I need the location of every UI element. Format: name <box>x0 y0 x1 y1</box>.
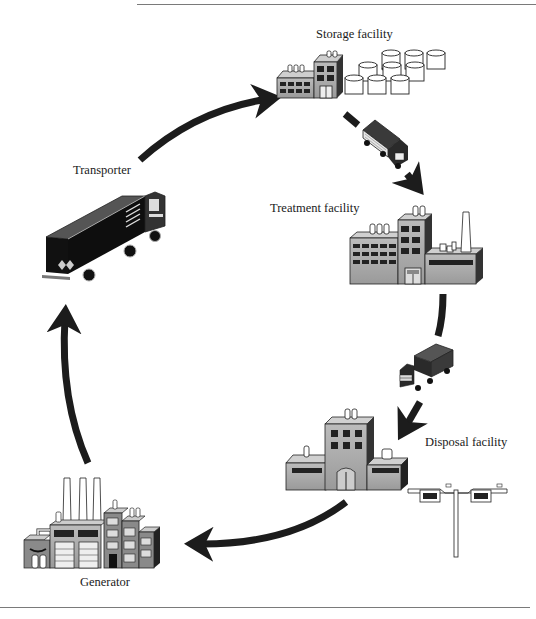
arrow-generator-to-transporter <box>64 318 88 463</box>
storage-facility-icon <box>277 50 445 98</box>
arrow-storage-to-truck <box>345 114 358 125</box>
generator-facility-icon <box>24 478 160 568</box>
arrow-truck-to-disposal <box>405 402 420 428</box>
arrow-disposal-to-generator <box>198 502 346 544</box>
transporter-label: Transporter <box>73 163 131 178</box>
small-truck-icon <box>400 344 453 391</box>
transporter-truck-icon <box>42 192 165 281</box>
treatment-facility-label: Treatment facility <box>270 201 359 216</box>
waste-cycle-diagram <box>0 0 536 619</box>
arrow-transporter-to-storage <box>140 99 268 160</box>
disposal-well-structure-icon <box>408 484 507 557</box>
disposal-facility-label: Disposal facility <box>425 435 507 450</box>
generator-label: Generator <box>80 575 130 590</box>
disposal-facility-icon <box>286 409 408 490</box>
treatment-facility-icon <box>350 206 483 284</box>
small-truck-icon <box>363 120 408 169</box>
arrow-treatment-to-truck <box>438 294 443 336</box>
arrow-truck-to-treatment <box>407 174 415 184</box>
storage-facility-label: Storage facility <box>316 27 393 42</box>
